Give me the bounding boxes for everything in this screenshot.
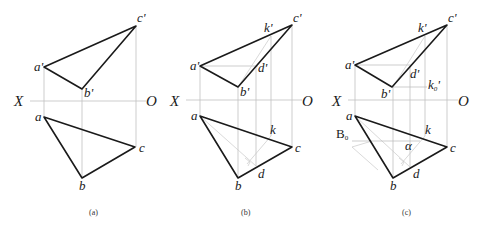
line-B0-k bbox=[352, 141, 372, 147]
label-d: d bbox=[413, 166, 420, 181]
label-k0-prime: k0' bbox=[428, 77, 440, 93]
label-c-prime: c' bbox=[137, 10, 146, 25]
label-k: k bbox=[425, 122, 431, 137]
label-b: b bbox=[79, 178, 86, 193]
label-b-prime: b' bbox=[84, 85, 94, 100]
line-a-d bbox=[200, 116, 256, 166]
label-a-prime: a' bbox=[190, 58, 200, 73]
label-d-prime: d' bbox=[258, 60, 268, 75]
top-view-triangle bbox=[200, 116, 292, 178]
label-a-prime: a' bbox=[345, 57, 355, 72]
label-a-prime: a' bbox=[34, 59, 44, 74]
top-view-triangle bbox=[44, 117, 135, 178]
label-a: a bbox=[35, 109, 42, 124]
x-axis-label: X bbox=[169, 93, 180, 109]
label-c-prime: c' bbox=[293, 10, 302, 25]
front-view-triangle bbox=[200, 25, 292, 87]
line-k-perpendicular bbox=[247, 136, 271, 164]
label-B0: B0 bbox=[336, 126, 349, 142]
x-axis-label: X bbox=[13, 93, 24, 109]
label-b: b bbox=[235, 178, 242, 193]
label-c: c bbox=[139, 140, 145, 155]
line-B0-parallel bbox=[352, 147, 378, 170]
top-view-triangle bbox=[355, 116, 447, 178]
projection-diagram: X O a' b' c' a b c (a) X O a' b' c' k' d bbox=[0, 0, 478, 229]
label-k: k bbox=[270, 122, 276, 137]
panel-a: X O a' b' c' a b c (a) bbox=[13, 10, 157, 217]
label-a: a bbox=[191, 108, 198, 123]
label-alpha: α bbox=[405, 138, 413, 153]
label-d-prime: d' bbox=[410, 66, 420, 81]
label-c: c bbox=[450, 140, 456, 155]
label-b-prime: b' bbox=[381, 86, 391, 101]
caption-c: (c) bbox=[402, 208, 411, 217]
label-b-prime: b' bbox=[240, 84, 250, 99]
front-view-triangle bbox=[44, 26, 136, 89]
right-angle-mark bbox=[245, 158, 250, 166]
o-axis-label: O bbox=[458, 93, 469, 109]
label-c: c bbox=[295, 140, 301, 155]
label-c-prime: c' bbox=[448, 10, 457, 25]
caption-b: (b) bbox=[241, 208, 251, 217]
o-axis-label: O bbox=[302, 93, 313, 109]
label-b: b bbox=[390, 178, 397, 193]
panel-c: X O a' b' c' k' d' k0' a b c k d B0 α (c… bbox=[331, 10, 469, 217]
panel-b: X O a' b' c' k' d' a b c k d (b) bbox=[169, 10, 313, 217]
o-axis-label: O bbox=[146, 93, 157, 109]
label-d: d bbox=[258, 166, 265, 181]
label-a: a bbox=[346, 108, 353, 123]
x-axis-label: X bbox=[331, 93, 342, 109]
label-k-prime: k' bbox=[418, 20, 427, 35]
caption-a: (a) bbox=[89, 208, 98, 217]
label-k-prime: k' bbox=[264, 20, 273, 35]
